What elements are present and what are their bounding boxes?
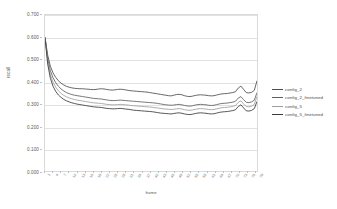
y-axis-tick-mark (40, 37, 42, 38)
x-axis-tick-label: 61 (211, 173, 216, 178)
y-axis-tick-mark (40, 149, 42, 150)
x-axis-tick-label: 13 (81, 173, 86, 178)
x-axis-tick-label: 28 (121, 173, 126, 178)
x-axis-title: frame (44, 190, 258, 195)
y-axis-tick-mark (40, 172, 42, 173)
x-axis-tick-label: 19 (97, 173, 102, 178)
x-axis-tick-label: 1 (47, 173, 51, 177)
x-axis-tick-mark (158, 171, 159, 173)
x-axis-tick-mark (93, 171, 94, 173)
x-axis-tick-mark (142, 171, 143, 173)
x-axis-tick-mark (255, 171, 256, 173)
x-axis-tick-mark (207, 171, 208, 173)
y-axis-tick-mark (40, 82, 42, 83)
x-axis-tick-label: 43 (162, 173, 167, 178)
x-axis-tick-mark (190, 171, 191, 173)
x-axis-tick-mark (247, 171, 248, 173)
x-axis-tick-label: 4 (55, 173, 59, 177)
y-axis-tick-label: 0.300 (27, 102, 39, 107)
x-axis-tick-mark (231, 171, 232, 173)
y-axis-tick-label: 0.000 (27, 170, 39, 175)
x-axis-tick-mark (60, 171, 61, 173)
legend-item-label: config_5 (285, 104, 302, 109)
x-axis-tick-label: 64 (219, 173, 224, 178)
x-axis-tick-mark (223, 171, 224, 173)
y-axis-tick-mark (40, 59, 42, 60)
x-axis-tick-mark (44, 171, 45, 173)
x-axis-tick-mark (52, 171, 53, 173)
legend-item-label: config_2_finetuned (285, 95, 323, 100)
y-axis-tick-label: 0.400 (27, 79, 39, 84)
x-axis-tick-mark (77, 171, 78, 173)
chart-container: recall 0.7000.6000.5000.4000.3000.2000.1… (0, 0, 337, 209)
x-axis-tick-label: 76 (251, 173, 256, 178)
x-axis-tick-label: 52 (186, 173, 191, 178)
x-axis-tick-label: 7 (63, 173, 67, 177)
x-axis-tick-mark (101, 171, 102, 173)
x-axis-tick-label: 55 (194, 173, 199, 178)
x-axis-tick-label: 31 (129, 173, 134, 178)
x-axis-tick-label: 49 (178, 173, 183, 178)
x-axis-tick-mark (85, 171, 86, 173)
legend-item-label: config_2 (285, 87, 302, 92)
x-axis-tick-mark (174, 171, 175, 173)
x-axis-tick-mark (150, 171, 151, 173)
y-axis-tick-mark (40, 127, 42, 128)
x-axis-tick-label: 16 (89, 173, 94, 178)
x-axis-tick-label: 40 (154, 173, 159, 178)
x-axis-tick-mark (166, 171, 167, 173)
x-axis-tick-mark (117, 171, 118, 173)
y-axis-tick-label: 0.100 (27, 147, 39, 152)
x-axis-tick-label: 73 (243, 173, 248, 178)
x-axis-tick-mark (109, 171, 110, 173)
x-axis-tick-label: 10 (72, 173, 77, 178)
x-axis-tick-mark (133, 171, 134, 173)
x-axis-tick-label: 70 (235, 173, 240, 178)
y-axis-tick-mark (40, 14, 42, 15)
x-axis-tick-label: 67 (227, 173, 232, 178)
legend-color-swatch (272, 114, 283, 115)
y-axis-tick-label: 0.500 (27, 57, 39, 62)
x-axis-tick-mark (68, 171, 69, 173)
legend-item-label: config_5_finetuned (285, 112, 323, 117)
y-axis-tick-mark (40, 104, 42, 105)
plot-lines (45, 15, 257, 171)
x-axis-tick-label: 37 (146, 173, 151, 178)
series-line (45, 38, 257, 111)
y-axis-tick-label: 0.700 (27, 12, 39, 17)
legend-item[interactable]: config_2 (272, 85, 336, 93)
series-line (45, 37, 257, 106)
plot-area (44, 14, 258, 172)
x-axis-tick-label: 46 (170, 173, 175, 178)
chart-legend: config_2config_2_finetunedconfig_5config… (272, 85, 336, 119)
y-axis-tick-labels: 0.7000.6000.5000.4000.3000.2000.1000.000 (0, 14, 42, 172)
y-axis-tick-label: 0.200 (27, 124, 39, 129)
legend-item[interactable]: config_5 (272, 102, 336, 110)
x-axis-tick-mark (182, 171, 183, 173)
x-axis-tick-mark (215, 171, 216, 173)
y-axis-tick-label: 0.600 (27, 34, 39, 39)
x-axis-tick-label: 22 (105, 173, 110, 178)
legend-color-swatch (272, 89, 283, 90)
legend-color-swatch (272, 106, 283, 107)
x-axis-tick-mark (125, 171, 126, 173)
x-axis-tick-label: 79 (259, 173, 264, 178)
x-axis-tick-label: 34 (137, 173, 142, 178)
x-axis-tick-labels: 1471013161922252831343740434649525558616… (44, 173, 258, 189)
legend-item[interactable]: config_2_finetuned (272, 94, 336, 102)
series-line (45, 37, 257, 96)
x-axis-tick-mark (198, 171, 199, 173)
x-axis-tick-label: 58 (202, 173, 207, 178)
legend-color-swatch (272, 97, 283, 98)
x-axis-tick-label: 25 (113, 173, 118, 178)
x-axis-tick-mark (239, 171, 240, 173)
legend-item[interactable]: config_5_finetuned (272, 111, 336, 119)
